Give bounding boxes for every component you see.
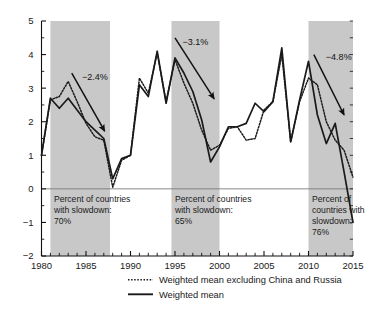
legend-label: Weighted mean excluding China and Russia	[159, 275, 343, 285]
y-tick-label: 3	[28, 83, 33, 94]
slope-arrow-label: −4.8%	[326, 52, 352, 62]
y-tick-label: −1	[23, 217, 34, 228]
chart-legend: Weighted mean excluding China and Russia…	[128, 275, 343, 300]
chart-figure: 543210−1−2 19801985199019952000200520102…	[0, 0, 366, 316]
slope-arrow-label: −2.4%	[82, 72, 108, 82]
y-tick-label: 2	[28, 116, 33, 127]
y-tick-label: 4	[28, 49, 33, 60]
x-tick-label: 1995	[164, 260, 185, 271]
x-tick-label: 1990	[120, 260, 141, 271]
x-tick-label: 2000	[209, 260, 230, 271]
y-tick-label: 5	[28, 15, 33, 26]
growth-slowdown-line-chart: 543210−1−2 19801985199019952000200520102…	[0, 0, 366, 316]
x-tick-label: 2010	[298, 260, 319, 271]
legend-label: Weighted mean	[159, 290, 224, 300]
x-axis-tick-labels: 19801985199019952000200520102015	[31, 260, 364, 271]
x-tick-label: 2015	[342, 260, 363, 271]
y-tick-label: 1	[28, 150, 33, 161]
slope-arrow-label: −3.1%	[183, 37, 209, 47]
x-tick-label: 1980	[31, 260, 52, 271]
x-tick-label: 1985	[75, 260, 96, 271]
y-axis-tick-labels: 543210−1−2	[23, 15, 34, 261]
x-tick-label: 2005	[253, 260, 274, 271]
shaded-bands	[50, 21, 353, 256]
y-tick-label: 0	[28, 183, 33, 194]
